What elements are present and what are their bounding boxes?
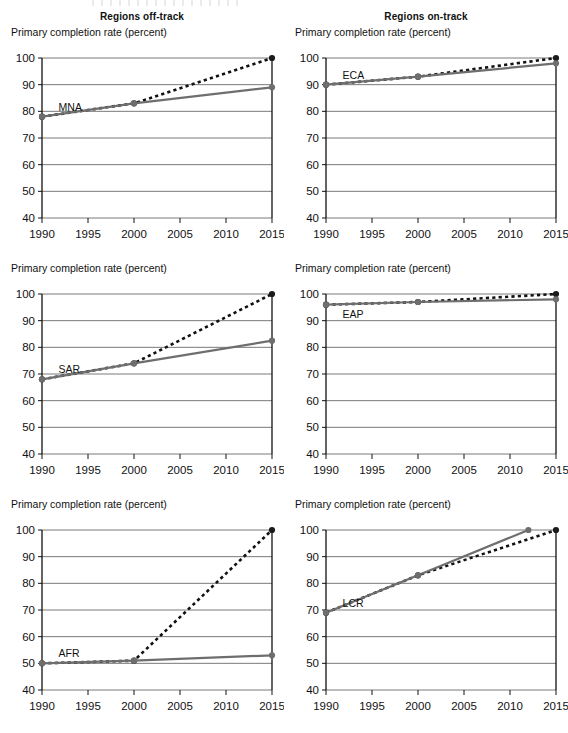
data-point-afr-1990 bbox=[39, 660, 45, 666]
ytick-label-70: 70 bbox=[22, 132, 35, 144]
xtick-label-2015: 2015 bbox=[259, 228, 284, 240]
ytick-label-50: 50 bbox=[306, 421, 319, 433]
xtick-label-2005: 2005 bbox=[167, 464, 193, 476]
ytick-label-80: 80 bbox=[306, 105, 319, 117]
panel-sar: Primary completion rate (percent)4050607… bbox=[0, 262, 284, 494]
plot-area-afr: 405060708090100199019952000200520102015A… bbox=[0, 517, 284, 730]
xtick-label-2005: 2005 bbox=[167, 228, 193, 240]
data-point-afr-2015 bbox=[269, 652, 275, 658]
xtick-label-2010: 2010 bbox=[497, 700, 523, 712]
xtick-label-2000: 2000 bbox=[405, 464, 431, 476]
data-point-afr-2015 bbox=[269, 527, 275, 533]
plot-area-eap: 405060708090100199019952000200520102015E… bbox=[284, 281, 568, 494]
axis-label-eca: Primary completion rate (percent) bbox=[295, 26, 451, 38]
ytick-label-80: 80 bbox=[306, 341, 319, 353]
plot-area-sar: 405060708090100199019952000200520102015S… bbox=[0, 281, 284, 494]
ytick-label-80: 80 bbox=[22, 105, 35, 117]
column-title-on-track: Regions on-track bbox=[284, 11, 568, 22]
data-point-lcr-2000 bbox=[415, 572, 421, 578]
xtick-label-1995: 1995 bbox=[75, 700, 101, 712]
panel-mna: Primary completion rate (percent)4050607… bbox=[0, 26, 284, 258]
ytick-label-100: 100 bbox=[300, 288, 319, 300]
data-point-eca-2015 bbox=[553, 60, 559, 66]
data-point-mna-2015 bbox=[269, 55, 275, 61]
plot-area-eca: 405060708090100199019952000200520102015E… bbox=[284, 45, 568, 258]
data-point-eap-1990 bbox=[323, 302, 329, 308]
ytick-label-50: 50 bbox=[306, 657, 319, 669]
data-point-sar-2015 bbox=[269, 291, 275, 297]
panel-eca: Primary completion rate (percent)4050607… bbox=[284, 26, 568, 258]
xtick-label-2015: 2015 bbox=[259, 464, 284, 476]
ytick-label-40: 40 bbox=[306, 684, 319, 696]
xtick-label-2010: 2010 bbox=[497, 464, 523, 476]
xtick-label-1990: 1990 bbox=[313, 464, 339, 476]
xtick-label-2000: 2000 bbox=[121, 700, 147, 712]
xtick-label-1990: 1990 bbox=[313, 228, 339, 240]
clipped-text-artifact bbox=[92, 0, 242, 6]
xtick-label-2010: 2010 bbox=[213, 700, 239, 712]
xtick-label-2005: 2005 bbox=[167, 700, 193, 712]
region-label-mna: MNA bbox=[59, 101, 82, 113]
ytick-label-100: 100 bbox=[16, 52, 35, 64]
axis-label-eap: Primary completion rate (percent) bbox=[295, 262, 451, 274]
series-target-afr bbox=[42, 530, 272, 663]
xtick-label-2005: 2005 bbox=[451, 464, 477, 476]
chart-page: Regions off-track Regions on-track Prima… bbox=[0, 0, 568, 733]
data-point-eap-2015 bbox=[553, 296, 559, 302]
axis-label-sar: Primary completion rate (percent) bbox=[11, 262, 167, 274]
xtick-label-2015: 2015 bbox=[543, 228, 568, 240]
ytick-label-70: 70 bbox=[306, 604, 319, 616]
xtick-label-1990: 1990 bbox=[29, 228, 55, 240]
ytick-label-90: 90 bbox=[22, 315, 35, 327]
ytick-label-40: 40 bbox=[306, 448, 319, 460]
xtick-label-2010: 2010 bbox=[497, 228, 523, 240]
data-point-lcr-1990 bbox=[323, 610, 329, 616]
xtick-label-2015: 2015 bbox=[543, 464, 568, 476]
ytick-label-60: 60 bbox=[306, 395, 319, 407]
ytick-label-90: 90 bbox=[306, 551, 319, 563]
plot-area-mna: 405060708090100199019952000200520102015M… bbox=[0, 45, 284, 258]
ytick-label-70: 70 bbox=[306, 132, 319, 144]
plot-area-lcr: 405060708090100199019952000200520102015L… bbox=[284, 517, 568, 730]
data-point-eap-2000 bbox=[415, 299, 421, 305]
xtick-label-1990: 1990 bbox=[29, 464, 55, 476]
xtick-label-2005: 2005 bbox=[451, 228, 477, 240]
ytick-label-50: 50 bbox=[306, 185, 319, 197]
ytick-label-70: 70 bbox=[306, 368, 319, 380]
axis-label-afr: Primary completion rate (percent) bbox=[11, 498, 167, 510]
region-label-afr: AFR bbox=[59, 647, 80, 659]
data-point-eca-2000 bbox=[415, 74, 421, 80]
ytick-label-100: 100 bbox=[16, 524, 35, 536]
data-point-mna-2015 bbox=[269, 84, 275, 90]
ytick-label-80: 80 bbox=[22, 341, 35, 353]
ytick-label-70: 70 bbox=[22, 604, 35, 616]
series-actual-eap bbox=[326, 299, 556, 304]
ytick-label-40: 40 bbox=[22, 212, 35, 224]
panel-lcr: Primary completion rate (percent)4050607… bbox=[284, 498, 568, 730]
data-point-afr-2000 bbox=[131, 658, 137, 664]
data-point-mna-1990 bbox=[39, 114, 45, 120]
xtick-label-1990: 1990 bbox=[29, 700, 55, 712]
xtick-label-2000: 2000 bbox=[405, 228, 431, 240]
data-point-eca-2015 bbox=[553, 55, 559, 61]
region-label-eap: EAP bbox=[343, 308, 364, 320]
ytick-label-40: 40 bbox=[22, 684, 35, 696]
xtick-label-2010: 2010 bbox=[213, 228, 239, 240]
xtick-label-1995: 1995 bbox=[359, 228, 385, 240]
xtick-label-1995: 1995 bbox=[359, 700, 385, 712]
xtick-label-1995: 1995 bbox=[75, 228, 101, 240]
xtick-label-2005: 2005 bbox=[451, 700, 477, 712]
data-point-lcr-2015 bbox=[553, 527, 559, 533]
column-title-off-track: Regions off-track bbox=[0, 11, 284, 22]
axis-label-lcr: Primary completion rate (percent) bbox=[295, 498, 451, 510]
data-point-sar-1990 bbox=[39, 376, 45, 382]
region-label-lcr: LCR bbox=[343, 597, 364, 609]
data-point-lcr-2012 bbox=[525, 527, 531, 533]
data-point-mna-2000 bbox=[131, 100, 137, 106]
xtick-label-2010: 2010 bbox=[213, 464, 239, 476]
panel-afr: Primary completion rate (percent)4050607… bbox=[0, 498, 284, 730]
xtick-label-1990: 1990 bbox=[313, 700, 339, 712]
ytick-label-50: 50 bbox=[22, 657, 35, 669]
ytick-label-90: 90 bbox=[22, 551, 35, 563]
ytick-label-70: 70 bbox=[22, 368, 35, 380]
